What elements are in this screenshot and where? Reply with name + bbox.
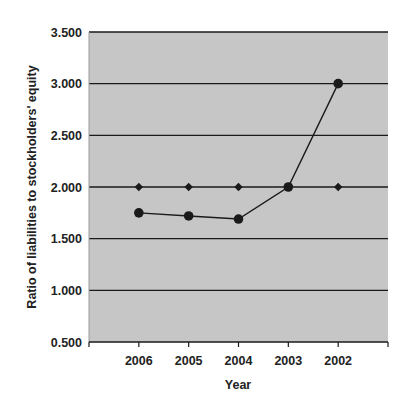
circle-marker bbox=[134, 208, 144, 218]
y-tick-label: 1.500 bbox=[51, 232, 82, 246]
y-tick-label: 0.500 bbox=[51, 336, 82, 350]
x-tick-label: 2003 bbox=[274, 354, 302, 368]
y-tick-label: 3.000 bbox=[51, 77, 82, 91]
y-axis-title: Ratio of liabilities to stockholders' eq… bbox=[25, 65, 39, 308]
x-axis-title: Year bbox=[225, 378, 252, 392]
line-chart: 0.5001.0001.5002.0002.5003.0003.500 2006… bbox=[0, 0, 408, 410]
x-tick-label: 2004 bbox=[225, 354, 253, 368]
circle-marker bbox=[333, 79, 343, 89]
x-tick-label: 2005 bbox=[175, 354, 203, 368]
y-tick-label: 2.500 bbox=[51, 129, 82, 143]
y-tick-label: 3.500 bbox=[51, 26, 82, 40]
circle-marker bbox=[184, 211, 194, 221]
circle-marker bbox=[234, 214, 244, 224]
y-axis-tick-labels: 0.5001.0001.5002.0002.5003.0003.500 bbox=[51, 26, 82, 350]
x-tick-label: 2002 bbox=[324, 354, 352, 368]
y-tick-label: 2.000 bbox=[51, 181, 82, 195]
x-tick-label: 2006 bbox=[125, 354, 153, 368]
y-tick-label: 1.000 bbox=[51, 284, 82, 298]
x-axis: 20062005200420032002 bbox=[89, 342, 388, 368]
